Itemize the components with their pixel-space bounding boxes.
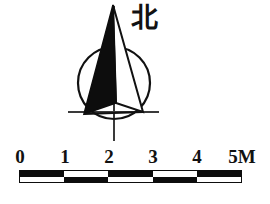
north-character-label: 北 [128,2,160,34]
scale-tick-label-3: 3 [143,146,163,167]
scale-bar-tick-labels: 0 1 2 3 4 5M [0,146,270,168]
scale-tick-label-0: 0 [10,146,30,167]
scale-cell [20,177,64,183]
scale-bar [19,170,242,183]
scale-cell [153,177,197,183]
scale-tick-label-2: 2 [99,146,119,167]
scale-cell [197,177,241,183]
compass-needle-dark-half [84,5,116,114]
scale-tick-label-1: 1 [55,146,75,167]
scale-cell [108,177,152,183]
scale-bar-row-bottom [20,177,241,183]
scale-cell [64,177,108,183]
scale-tick-label-4: 4 [187,146,207,167]
scale-tick-label-5: 5M [226,146,258,167]
